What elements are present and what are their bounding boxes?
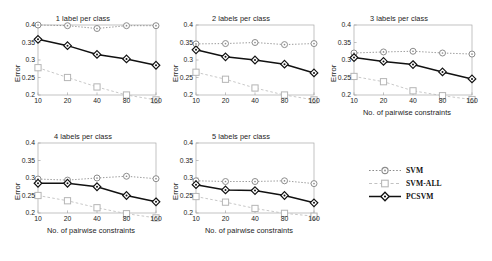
x-tick-label: 10 — [27, 215, 49, 222]
data-point-svm-all — [222, 199, 228, 205]
data-point-pcsvm — [281, 60, 289, 68]
x-tick-label: 20 — [373, 97, 395, 104]
x-tick-label: 80 — [116, 215, 138, 222]
data-point-svm — [282, 42, 288, 48]
data-point-svm — [311, 181, 317, 187]
data-point-svm — [381, 49, 387, 55]
data-point-svm — [469, 51, 475, 57]
x-tick-label: 80 — [274, 215, 296, 222]
data-point-svm-all — [94, 84, 100, 90]
x-tick-label: 80 — [274, 97, 296, 104]
data-point-pcsvm — [34, 36, 42, 44]
x-tick-label: 10 — [185, 215, 207, 222]
data-point-pcsvm — [380, 58, 388, 66]
data-point-svm — [94, 26, 100, 32]
data-point-svm — [223, 179, 229, 185]
data-point-pcsvm — [123, 192, 131, 200]
y-tick-label: 0.25 — [12, 74, 35, 81]
x-tick-label: 160 — [145, 215, 167, 222]
x-tick-label: 80 — [432, 97, 454, 104]
data-point-svm — [94, 175, 100, 181]
panel-4-labels-per-class: 4 labels per class Error No. of pairwise… — [8, 132, 158, 244]
data-point-pcsvm — [281, 192, 289, 200]
y-tick-label: 0.25 — [170, 192, 193, 199]
y-tick-label: 0.25 — [12, 192, 35, 199]
y-tick-label: 0.4 — [328, 21, 351, 28]
x-axis-label: No. of pairwise constraints — [184, 226, 314, 235]
panel-3-labels-per-class: 3 labels per class Error No. of pairwise… — [324, 14, 474, 118]
data-point-pcsvm — [439, 68, 447, 76]
data-point-svm-all — [64, 198, 70, 204]
legend: SVM SVM-ALL PCSVM — [368, 164, 478, 203]
y-tick-label: 0.3 — [12, 174, 35, 181]
legend-item-svm-all: SVM-ALL — [368, 177, 478, 190]
y-tick-label: 0.3 — [170, 174, 193, 181]
y-tick-label: 0.4 — [12, 21, 35, 28]
x-tick-label: 80 — [116, 97, 138, 104]
x-tick-label: 40 — [86, 97, 108, 104]
data-point-svm-all — [222, 76, 228, 82]
y-tick-label: 0.35 — [170, 157, 193, 164]
data-point-svm-all — [193, 69, 199, 75]
panel-1-label-per-class: 1 label per class Error 0.20.250.30.350.… — [8, 14, 158, 118]
data-point-svm-all — [351, 73, 357, 79]
x-tick-label: 160 — [145, 97, 167, 104]
data-point-pcsvm — [93, 51, 101, 59]
y-tick-label: 0.3 — [12, 56, 35, 63]
figure-multi-panel-error-vs-constraints: 1 label per class Error 0.20.250.30.350.… — [0, 0, 492, 261]
data-point-pcsvm — [64, 42, 72, 50]
data-point-pcsvm — [310, 69, 318, 77]
data-point-svm-all — [35, 192, 41, 198]
data-point-pcsvm — [251, 187, 259, 195]
x-tick-label: 20 — [215, 97, 237, 104]
x-axis-label: No. of pairwise constraints — [26, 226, 156, 235]
data-point-pcsvm — [251, 56, 259, 64]
legend-marker-square-icon — [368, 177, 402, 190]
data-point-pcsvm — [222, 53, 230, 61]
x-axis-label: No. of pairwise constraints — [342, 108, 472, 117]
data-point-svm — [311, 41, 317, 47]
data-point-pcsvm — [123, 55, 131, 63]
data-point-pcsvm — [310, 199, 318, 207]
legend-item-pcsvm: PCSVM — [368, 190, 478, 203]
data-point-svm-all — [252, 85, 258, 91]
data-point-svm-all — [64, 74, 70, 80]
y-tick-label: 0.35 — [12, 157, 35, 164]
y-tick-label: 0.3 — [170, 56, 193, 63]
y-tick-label: 0.35 — [12, 39, 35, 46]
data-point-svm — [440, 50, 446, 56]
data-point-svm-all — [193, 193, 199, 199]
legend-item-svm: SVM — [368, 164, 478, 177]
data-point-pcsvm — [152, 198, 160, 206]
y-tick-label: 0.4 — [170, 139, 193, 146]
data-point-svm-all — [35, 65, 41, 71]
data-point-svm — [153, 23, 159, 29]
panel-5-labels-per-class: 5 labels per class Error No. of pairwise… — [166, 132, 316, 244]
panel-2-labels-per-class: 2 labels per class Error 0.20.250.30.350… — [166, 14, 316, 118]
data-point-svm — [124, 173, 130, 179]
x-tick-label: 160 — [303, 97, 325, 104]
y-tick-label: 0.3 — [328, 56, 351, 63]
y-tick-label: 0.35 — [170, 39, 193, 46]
data-point-svm-all — [410, 88, 416, 94]
data-point-svm — [252, 179, 258, 185]
y-tick-label: 0.25 — [328, 74, 351, 81]
data-point-pcsvm — [468, 75, 476, 83]
data-point-svm — [282, 178, 288, 184]
x-tick-label: 40 — [402, 97, 424, 104]
x-tick-label: 40 — [244, 97, 266, 104]
x-tick-label: 160 — [461, 97, 483, 104]
data-point-svm-all — [94, 205, 100, 211]
y-tick-label: 0.25 — [170, 74, 193, 81]
x-tick-label: 20 — [57, 215, 79, 222]
legend-label: SVM — [406, 166, 423, 175]
data-point-svm — [124, 23, 130, 29]
legend-label: SVM-ALL — [406, 179, 442, 188]
data-point-pcsvm — [93, 183, 101, 191]
x-tick-label: 40 — [86, 215, 108, 222]
data-point-pcsvm — [409, 61, 417, 69]
data-point-svm-all — [380, 79, 386, 85]
data-point-pcsvm — [152, 61, 160, 69]
data-point-svm — [223, 41, 229, 47]
y-tick-label: 0.4 — [12, 139, 35, 146]
